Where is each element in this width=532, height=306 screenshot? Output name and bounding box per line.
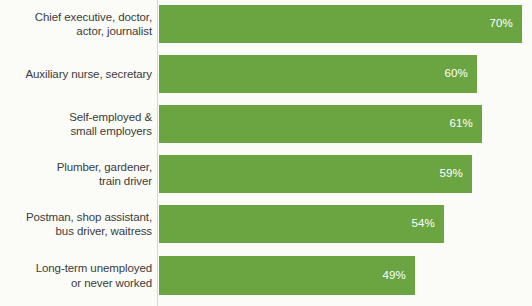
bar-category-label: Auxiliary nurse, secretary — [4, 67, 152, 82]
bar-row: Long-term unemployed or never worked 49% — [0, 256, 532, 295]
bar-track: 61% — [159, 105, 482, 143]
bar-value-label: 59% — [439, 168, 463, 180]
bar-category-label: Self-employed & small employers — [4, 110, 152, 139]
bar-value-label: 54% — [411, 218, 435, 230]
bar-value-label: 60% — [444, 68, 468, 80]
bar-fill[interactable]: 59% — [159, 155, 472, 193]
bar-fill[interactable]: 61% — [159, 105, 482, 143]
bar-row: Self-employed & small employers 61% — [0, 105, 532, 143]
bar-fill[interactable]: 70% — [159, 5, 522, 43]
bar-category-label: Postman, shop assistant, bus driver, wai… — [4, 210, 152, 239]
bar-fill[interactable]: 49% — [159, 256, 415, 295]
bar-category-label: Long-term unemployed or never worked — [4, 261, 152, 290]
bar-track: 70% — [159, 5, 522, 43]
bar-row: Postman, shop assistant, bus driver, wai… — [0, 205, 532, 243]
bar-value-label: 70% — [489, 18, 513, 30]
bar-category-label: Chief executive, doctor, actor, journali… — [4, 10, 152, 39]
bar-fill[interactable]: 54% — [159, 205, 444, 243]
bar-track: 59% — [159, 155, 472, 193]
bar-row: Plumber, gardener, train driver 59% — [0, 155, 532, 193]
bar-value-label: 49% — [382, 270, 406, 282]
bar-track: 60% — [159, 55, 477, 93]
bar-value-label: 61% — [449, 118, 473, 130]
bar-fill[interactable]: 60% — [159, 55, 477, 93]
bar-category-label: Plumber, gardener, train driver — [4, 160, 152, 189]
bar-track: 49% — [159, 256, 415, 295]
bar-chart: Chief executive, doctor, actor, journali… — [0, 0, 532, 306]
bar-row: Auxiliary nurse, secretary 60% — [0, 55, 532, 93]
bar-track: 54% — [159, 205, 444, 243]
bar-row: Chief executive, doctor, actor, journali… — [0, 5, 532, 43]
